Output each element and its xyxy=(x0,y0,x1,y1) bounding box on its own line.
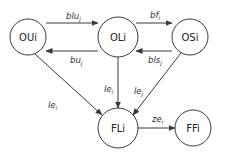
edge-label-le-center: lei xyxy=(104,84,114,95)
node-ffi: FFi xyxy=(175,110,211,146)
node-oui: OUi xyxy=(10,19,46,55)
node-oli: OLi xyxy=(98,17,138,57)
node-label-oui: OUi xyxy=(19,32,37,43)
node-label-fli: FLi xyxy=(111,123,125,134)
edge-oui-to-fli xyxy=(35,54,102,115)
node-label-oli: OLi xyxy=(110,32,126,43)
node-osi: OSi xyxy=(172,19,208,55)
edge-label-bf: bfi xyxy=(150,10,160,21)
edge-label-blu: bluj xyxy=(66,11,81,23)
edge-label-bls: blsj xyxy=(148,55,162,67)
state-diagram: bluj buj bfi blsj lei lei lej zei OUi OL… xyxy=(0,0,233,152)
node-label-ffi: FFi xyxy=(186,123,200,134)
edge-label-bu: buj xyxy=(70,55,83,67)
node-fli: FLi xyxy=(98,108,138,148)
edge-label-ze: zei xyxy=(151,114,164,125)
edge-label-le-right: lej xyxy=(134,86,144,98)
edge-label-le-left: lei xyxy=(48,100,58,111)
node-label-osi: OSi xyxy=(182,32,199,43)
